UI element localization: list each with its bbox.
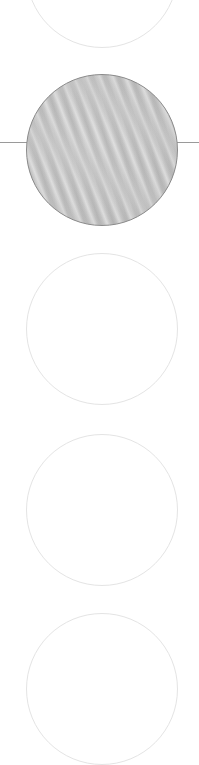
swatch-texture-label: none [27, 614, 28, 615]
selection-indicator-line-left [0, 142, 28, 143]
swatch-item[interactable]: none [26, 613, 178, 765]
swatch-item[interactable]: none [26, 434, 178, 586]
swatch-texture-label: none [27, 435, 28, 436]
selection-indicator-line-right [177, 142, 199, 143]
swatch-texture-label: gray-moire-wood-grain [27, 75, 28, 76]
swatch-texture-label: none [27, 254, 28, 255]
swatch-item-selected[interactable]: gray-moire-wood-grain [26, 74, 178, 226]
swatch-item[interactable]: none [26, 253, 178, 405]
swatch-item[interactable]: none [26, 0, 178, 48]
